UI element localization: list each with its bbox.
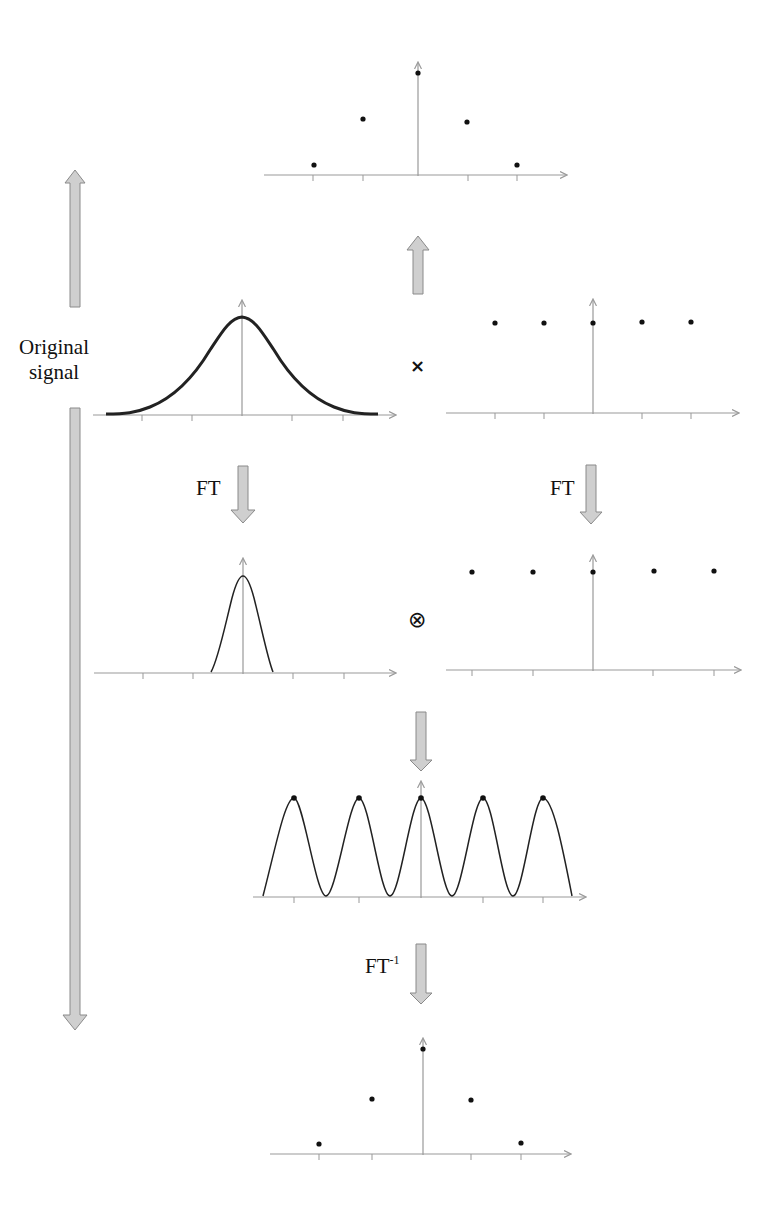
- ft-left-label: FT: [196, 476, 221, 501]
- plot-original-signal: [93, 301, 395, 421]
- ft-inverse-exponent: -1: [390, 953, 400, 967]
- x-ticks: [294, 897, 543, 903]
- multiply-icon: ×: [410, 355, 425, 376]
- plot-ft-signal: [94, 559, 395, 679]
- plot-top-sampled: [264, 63, 566, 181]
- ft-right-label: FT: [550, 476, 575, 501]
- x-ticks: [319, 1154, 521, 1160]
- sample-dots: [311, 70, 519, 167]
- left-down-arrow-icon: [63, 408, 87, 1030]
- narrow-peak-curve: [211, 576, 273, 672]
- original-signal-line1: Original: [4, 335, 104, 360]
- ft-left-down-arrow-icon: [231, 466, 255, 523]
- sample-dots: [316, 1046, 523, 1146]
- plot-periodic-spectrum: [253, 782, 585, 903]
- original-signal-line2: signal: [4, 360, 104, 385]
- plot-sampling-comb: [446, 300, 738, 419]
- convolve-icon: ⊗: [408, 607, 426, 632]
- left-up-arrow-icon: [65, 170, 85, 307]
- plot-bottom-sampled: [270, 1039, 570, 1160]
- ft-inverse-base: FT: [365, 954, 390, 978]
- plot-ft-comb: [446, 556, 740, 676]
- center-up-arrow-icon: [407, 236, 429, 294]
- ft-inverse-label: FT-1: [365, 953, 400, 979]
- periodic-curve: [263, 798, 572, 896]
- original-signal-label: Original signal: [4, 335, 104, 385]
- ft-inverse-down-arrow-icon: [410, 944, 432, 1004]
- center-down-arrow-icon: [410, 712, 432, 771]
- ft-right-down-arrow-icon: [580, 465, 602, 524]
- x-ticks: [313, 175, 517, 181]
